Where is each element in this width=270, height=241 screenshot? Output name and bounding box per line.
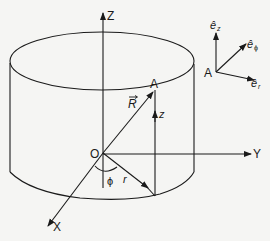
x-axis-label: X — [53, 220, 61, 234]
x-axis — [48, 153, 103, 226]
point-a-label: A — [150, 77, 158, 91]
cylinder-top-ellipse — [10, 32, 194, 90]
e-z-label: ê z — [210, 19, 221, 32]
diagram-svg: Z Y X O A R z r ϕ A ê z ê ϕ ê r — [0, 0, 270, 241]
svg-text:ê: ê — [247, 38, 253, 50]
cylinder-bottom-arc — [10, 172, 194, 199]
unit-vector-e-r — [216, 72, 254, 80]
origin-label: O — [90, 147, 99, 161]
svg-text:z: z — [216, 25, 221, 32]
svg-text:ϕ: ϕ — [254, 44, 258, 52]
radius-label: r — [123, 173, 128, 185]
svg-text:ê: ê — [251, 77, 257, 89]
unit-vector-e-phi — [216, 44, 246, 72]
svg-text:r: r — [258, 83, 261, 90]
y-axis-label: Y — [253, 147, 261, 161]
unit-origin-label: A — [204, 66, 212, 80]
position-vector-label: R — [128, 97, 137, 111]
z-axis-label: Z — [107, 9, 114, 23]
cylindrical-coordinates-diagram: Z Y X O A R z r ϕ A ê z ê ϕ ê r — [0, 0, 270, 241]
e-r-label: ê r — [251, 77, 261, 90]
radius-line-extension — [146, 186, 155, 196]
phi-arc — [95, 166, 117, 171]
phi-label: ϕ — [107, 175, 113, 187]
svg-text:ê: ê — [210, 19, 216, 31]
height-label: z — [158, 108, 165, 120]
e-phi-label: ê ϕ — [247, 38, 258, 52]
